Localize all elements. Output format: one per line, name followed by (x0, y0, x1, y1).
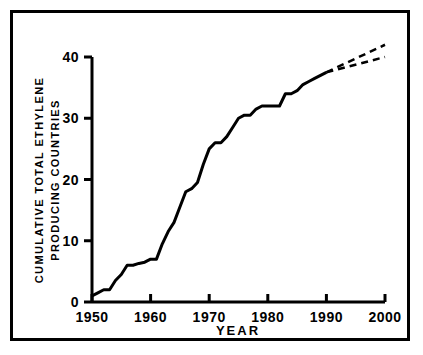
y-tick-label-40: 40 (62, 49, 79, 65)
chart-page: 010203040 195019601970198019902000 YEAR … (0, 0, 423, 355)
y-tick-label-30: 30 (62, 110, 79, 126)
y-axis-title-line-2: PRODUCING COUNTRIES (49, 99, 61, 261)
x-tick-label-1990: 1990 (310, 309, 343, 325)
series-line-2 (326, 57, 385, 72)
data-series-group (92, 45, 385, 296)
line-chart-plot: 010203040 195019601970198019902000 YEAR … (13, 13, 407, 338)
chart-frame-border: 010203040 195019601970198019902000 YEAR … (10, 10, 410, 341)
y-tick-label-0: 0 (71, 294, 79, 310)
x-tick-label-1960: 1960 (134, 309, 167, 325)
y-tick-label-20: 20 (62, 172, 79, 188)
y-axis-title-line-1: CUMULATIVE TOTAL ETHYLENE (33, 77, 45, 284)
x-tick-label-1950: 1950 (75, 309, 108, 325)
series-line-0 (92, 72, 326, 296)
y-tick-label-10: 10 (62, 233, 79, 249)
x-axis-title: YEAR (216, 323, 260, 338)
y-axis-tick-labels: 010203040 (62, 49, 79, 310)
x-tick-label-2000: 2000 (368, 309, 401, 325)
